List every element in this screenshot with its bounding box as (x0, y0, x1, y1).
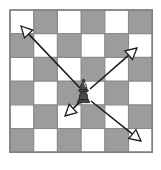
board-square-r5-c4[interactable] (105, 129, 129, 153)
bishop-finial (82, 79, 85, 82)
board-square-r4-c5[interactable] (129, 105, 153, 129)
board-square-r4-c0[interactable] (10, 105, 34, 129)
board-square-r5-c2[interactable] (57, 129, 81, 153)
chess-bishop-move-diagram: Bishop diagonal movement on a checkered … (0, 0, 161, 170)
board-square-r3-c1[interactable] (34, 81, 58, 105)
board-square-r4-c1[interactable] (34, 105, 58, 129)
board-square-r2-c4[interactable] (105, 57, 129, 81)
board-square-r3-c5[interactable] (129, 81, 153, 105)
board-square-r1-c0[interactable] (10, 34, 34, 58)
board-square-r2-c0[interactable] (10, 57, 34, 81)
board-square-r0-c3[interactable] (81, 10, 105, 34)
diagram-canvas: Bishop diagonal movement on a checkered … (0, 0, 161, 170)
board-square-r1-c3[interactable] (81, 34, 105, 58)
board-square-r4-c4[interactable] (105, 105, 129, 129)
board-square-r3-c0[interactable] (10, 81, 34, 105)
board-square-r1-c2[interactable] (57, 34, 81, 58)
board-square-r0-c1[interactable] (34, 10, 58, 34)
board-square-r0-c4[interactable] (105, 10, 129, 34)
board-square-r3-c4[interactable] (105, 81, 129, 105)
board-square-r1-c4[interactable] (105, 34, 129, 58)
board-square-r0-c5[interactable] (129, 10, 153, 34)
board-square-r2-c5[interactable] (129, 57, 153, 81)
board-square-r1-c1[interactable] (34, 34, 58, 58)
board-square-r2-c3[interactable] (81, 57, 105, 81)
board-square-r0-c2[interactable] (57, 10, 81, 34)
board-square-r5-c0[interactable] (10, 129, 34, 153)
board-square-r5-c3[interactable] (81, 129, 105, 153)
board-square-r5-c1[interactable] (34, 129, 58, 153)
